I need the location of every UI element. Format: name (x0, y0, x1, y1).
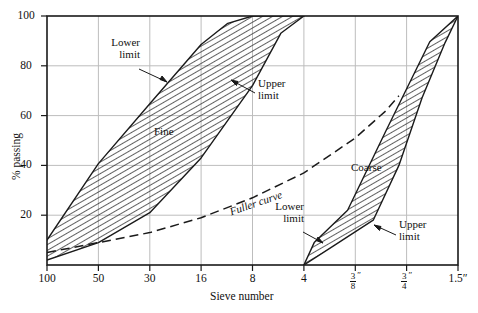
y-axis-title: % passing (10, 133, 22, 180)
y-tick-label-80: 80 (12, 60, 40, 72)
annotation-fine-upper-limit: Upper limit (258, 77, 310, 102)
x-tick-label-100: 100 (33, 273, 61, 285)
x-axis-ticks (47, 265, 458, 271)
x-tick-label-4: 4 (290, 273, 318, 285)
annotation-line-2: limit (119, 48, 140, 60)
annotation-line-1: Lower (111, 36, 140, 48)
inch-mark: ″ (357, 271, 361, 280)
annotation-line-2: limit (258, 89, 279, 101)
inch-mark: ″ (408, 271, 412, 280)
annotation-line-1: Upper (258, 77, 286, 89)
x-tick-label-30: 30 (136, 273, 164, 285)
x-tick-label-three-eighths-inch: 3 8 ″ (337, 272, 373, 292)
x-tick-label-8: 8 (239, 273, 267, 285)
y-tick-label-20: 20 (12, 209, 40, 221)
x-axis-title: Sieve number (210, 290, 274, 302)
fraction-denominator: 4 (401, 282, 408, 291)
annotation-line-1: Upper (399, 218, 427, 230)
band-label-fine: Fine (154, 125, 174, 137)
annotation-line-2: limit (283, 212, 304, 224)
x-tick-label-three-quarters-inch: 3 4 ″ (389, 272, 425, 292)
sieve-analysis-chart: 100 80 60 40 20 % passing 100 50 30 16 8… (0, 0, 478, 313)
x-tick-label-one-point-five-inch: 1.5″ (441, 273, 475, 285)
annotation-coarse-upper-limit: Upper limit (399, 218, 451, 243)
annotation-fine-lower-limit: Lower limit (88, 36, 140, 61)
y-tick-label-100: 100 (12, 10, 40, 22)
y-tick-label-60: 60 (12, 110, 40, 122)
fraction-denominator: 8 (350, 282, 357, 291)
x-tick-label-50: 50 (84, 273, 112, 285)
annotation-line-2: limit (399, 230, 420, 242)
annotation-line-1: Lower (275, 200, 304, 212)
y-axis-ticks (41, 16, 47, 215)
chart-canvas (0, 0, 478, 313)
x-tick-label-16: 16 (187, 273, 215, 285)
band-label-coarse: Coarse (351, 161, 382, 173)
